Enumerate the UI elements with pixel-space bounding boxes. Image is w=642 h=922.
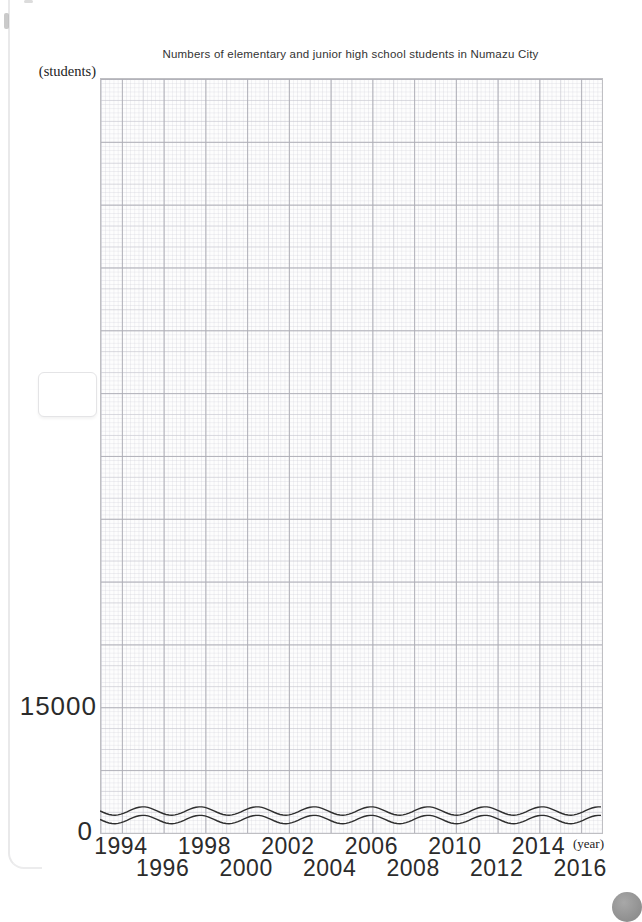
x-tick-label: 2000 bbox=[220, 857, 273, 880]
y-tick-label-0: 0 bbox=[78, 818, 93, 844]
y-tick-label-15000: 15000 bbox=[20, 693, 97, 719]
page-number-badge bbox=[612, 892, 642, 922]
x-tick-label: 2008 bbox=[387, 857, 440, 880]
graph-paper-plot-area bbox=[100, 78, 603, 834]
scan-smudge bbox=[4, 13, 9, 29]
page-edge-line bbox=[8, 0, 42, 869]
chart-title: Numbers of elementary and junior high sc… bbox=[100, 48, 601, 60]
x-tick-label: 2016 bbox=[554, 857, 607, 880]
x-axis-unit-label: (year) bbox=[573, 836, 604, 852]
x-tick-label: 1996 bbox=[136, 857, 189, 880]
scan-smudge bbox=[24, 0, 33, 3]
y-axis-unit-label: (students) bbox=[39, 63, 96, 80]
answer-box bbox=[38, 372, 97, 417]
x-tick-label: 2012 bbox=[470, 857, 523, 880]
x-tick-label: 2004 bbox=[303, 857, 356, 880]
